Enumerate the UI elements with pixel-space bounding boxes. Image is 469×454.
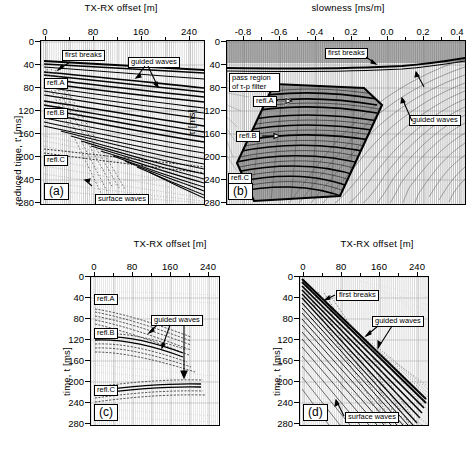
panel-b-ytick-7: 280 bbox=[194, 197, 220, 208]
panel-a-annotation-refl-c: refl.C bbox=[44, 155, 68, 166]
panel-b-annotation-guided-waves: guided waves bbox=[409, 115, 461, 126]
panel-c-annotation-refl-a: refl.A bbox=[94, 294, 118, 305]
panel-b-ytick-6: 240 bbox=[194, 174, 220, 185]
panel-d-ytick-3: 120 bbox=[267, 334, 293, 345]
panel-a-ytick-3: 120 bbox=[8, 105, 34, 116]
panel-b-ytick-2: 80 bbox=[194, 82, 220, 93]
panel-c-ytick-6: 240 bbox=[58, 397, 84, 408]
panel-d-ytick-5: 200 bbox=[267, 376, 293, 387]
panel-a-annotation-refl-b: refl.B bbox=[44, 108, 68, 119]
panel-b-xtick-6: 0.4 bbox=[450, 26, 463, 37]
panel-c-xtick-0: 0 bbox=[91, 261, 96, 272]
panel-c-ytick-4: 160 bbox=[58, 355, 84, 366]
panel-a-label: (a) bbox=[44, 183, 69, 200]
panel-c-annotation-refl-b: refl.B bbox=[94, 328, 118, 339]
panel-a-ytick-2: 80 bbox=[8, 82, 34, 93]
panel-d-ytick-0: 0 bbox=[267, 271, 293, 282]
panel-b-x-axis-title: slowness [ms/m] bbox=[238, 2, 458, 13]
panel-c-annotation-guided-waves: guided waves bbox=[151, 315, 203, 326]
panel-b-annotation-refl-a: refl.A bbox=[253, 96, 277, 107]
panel-c-ytick-1: 40 bbox=[58, 292, 84, 303]
panel-a-ytick-7: 280 bbox=[8, 197, 34, 208]
panel-c-ytick-7: 280 bbox=[58, 418, 84, 429]
panel-c-ytick-0: 0 bbox=[58, 271, 84, 282]
panel-d-xtick-2: 160 bbox=[371, 261, 387, 272]
panel-d-ytick-6: 240 bbox=[267, 397, 293, 408]
panel-d-x-axis-title: TX-RX offset [m] bbox=[292, 238, 462, 249]
panel-a-ytick-0: 0 bbox=[8, 36, 34, 47]
panel-c-ytick-2: 80 bbox=[58, 313, 84, 324]
panel-c-x-axis-title: TX-RX offset [m] bbox=[85, 238, 255, 249]
panel-a-plot-area bbox=[40, 40, 205, 205]
panel-b-label: (b) bbox=[228, 183, 253, 200]
panel-c-xtick-1: 80 bbox=[127, 261, 138, 272]
panel-b-annotation-first-breaks: first breaks bbox=[325, 48, 368, 59]
panel-d-annotation-guided-waves: guided waves bbox=[372, 316, 424, 327]
panel-a-ytick-6: 240 bbox=[8, 174, 34, 185]
panel-a-x-axis-title: TX-RX offset [m] bbox=[36, 2, 206, 13]
panel-b-ytick-4: 160 bbox=[194, 128, 220, 139]
panel-d-ytick-2: 80 bbox=[267, 313, 293, 324]
panel-b-annotation-refl-c: refl.C bbox=[228, 173, 252, 184]
panel-b-ytick-3: 120 bbox=[194, 105, 220, 116]
panel-c-annotation-refl-c: refl.C bbox=[94, 385, 118, 396]
panel-a-ytick-5: 200 bbox=[8, 151, 34, 162]
panel-d-ytick-7: 280 bbox=[267, 418, 293, 429]
panel-d-xtick-0: 0 bbox=[300, 261, 305, 272]
panel-c-label: (c) bbox=[94, 404, 118, 421]
panel-b-ytick-0: 0 bbox=[194, 36, 220, 47]
panel-a-ytick-4: 160 bbox=[8, 128, 34, 139]
panel-c-ytick-3: 120 bbox=[58, 334, 84, 345]
panel-c-xtick-3: 240 bbox=[200, 261, 216, 272]
panel-a-annotation-refl-a: refl.A bbox=[44, 78, 68, 89]
panel-c-ytick-5: 200 bbox=[58, 376, 84, 387]
panel-b-annotation-pass-region: pass region of τ-p filter bbox=[229, 73, 280, 92]
panel-d-annotation-surface-waves: surface waves bbox=[345, 412, 399, 423]
panel-a-annotation-surface-waves: surface waves bbox=[95, 194, 149, 205]
figure-seismic-panels: TX-RX offset [m] reduced time, t' [ms] 0… bbox=[0, 0, 469, 454]
panel-d-ytick-4: 160 bbox=[267, 355, 293, 366]
panel-d-ytick-1: 40 bbox=[267, 292, 293, 303]
panel-d-xtick-3: 240 bbox=[409, 261, 425, 272]
panel-a-annotation-guided-waves: guided waves bbox=[128, 57, 180, 68]
panel-b-ytick-1: 40 bbox=[194, 59, 220, 70]
panel-d-label: (d) bbox=[303, 404, 328, 421]
panel-d-annotation-first-breaks: first breaks bbox=[336, 290, 379, 301]
panel-a-ytick-1: 40 bbox=[8, 59, 34, 70]
panel-a-annotation-first-breaks: first breaks bbox=[62, 50, 105, 61]
panel-c-xtick-2: 160 bbox=[162, 261, 178, 272]
panel-b-ytick-5: 200 bbox=[194, 151, 220, 162]
panel-b-annotation-refl-b: refl.B bbox=[236, 131, 260, 142]
panel-d-xtick-1: 80 bbox=[336, 261, 347, 272]
